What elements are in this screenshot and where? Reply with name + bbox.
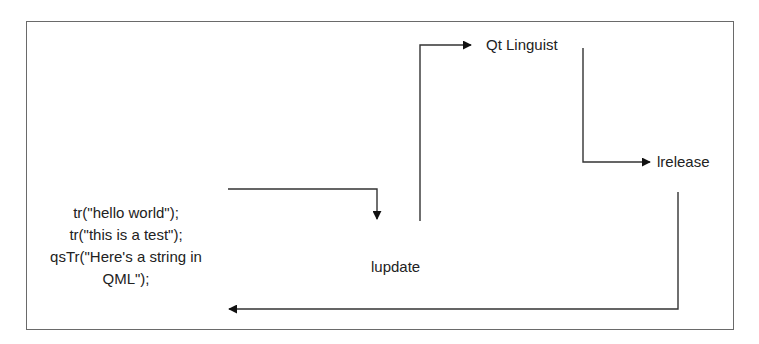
edge-lrelease-to-source xyxy=(229,192,678,309)
node-lupdate: lupdate xyxy=(371,256,420,278)
node-qt-linguist: Qt Linguist xyxy=(486,34,558,56)
source-code-block: tr("hello world"); tr("this is a test");… xyxy=(30,202,222,290)
code-line: tr("hello world"); xyxy=(30,202,222,224)
node-lrelease: lrelease xyxy=(657,151,710,173)
edge-lupdate-to-linguist xyxy=(420,45,471,221)
code-line: qsTr("Here's a string in xyxy=(30,246,222,268)
edge-source-to-lupdate xyxy=(228,189,377,219)
code-line: QML"); xyxy=(30,268,222,290)
edge-linguist-to-lrelease xyxy=(583,48,650,162)
code-line: tr("this is a test"); xyxy=(30,224,222,246)
connector-lines xyxy=(0,0,759,344)
